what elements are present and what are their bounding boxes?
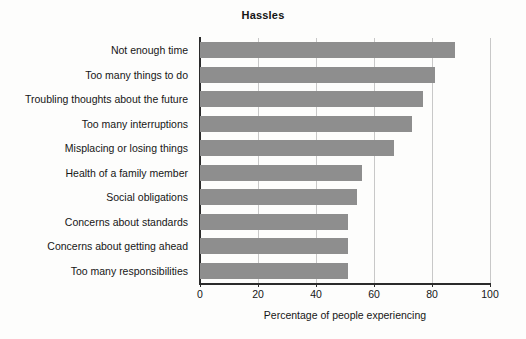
bar [200,189,357,205]
chart-title: Hassles [0,9,526,21]
bar [200,91,423,107]
chart-page: Hassles Not enough timeToo many things t… [0,0,526,339]
category-label: Social obligations [106,185,188,210]
bar-row [200,259,490,284]
category-label: Troubling thoughts about the future [25,87,188,112]
category-label: Health of a family member [65,161,188,186]
category-label: Too many things to do [85,63,188,88]
bar-row [200,234,490,259]
bar-row [200,63,490,88]
x-axis-line [199,283,491,285]
category-label: Too many responsibilities [71,259,188,284]
category-label: Concerns about getting ahead [47,234,188,259]
x-tick-label: 60 [368,288,380,300]
bar-row [200,112,490,137]
x-tick-mark [490,283,491,287]
x-tick-mark [258,283,259,287]
bar [200,214,348,230]
category-label: Misplacing or losing things [65,136,188,161]
category-label: Too many interruptions [82,112,188,137]
bar [200,263,348,279]
x-tick-label: 0 [197,288,203,300]
bar-row [200,161,490,186]
x-tick-label: 80 [426,288,438,300]
category-label: Not enough time [111,38,188,63]
bar [200,42,455,58]
bar [200,67,435,83]
x-axis-title: Percentage of people experiencing [200,309,490,321]
bar-row [200,87,490,112]
category-label: Concerns about standards [65,210,188,235]
gridline-100 [490,38,491,283]
bar [200,116,412,132]
bar-row [200,136,490,161]
x-tick-label: 100 [481,288,499,300]
x-axis-tick-labels: 020406080100 [0,288,526,304]
y-axis-category-labels: Not enough timeToo many things to doTrou… [0,38,194,283]
x-tick-mark [316,283,317,287]
x-tick-label: 20 [252,288,264,300]
bar-row [200,38,490,63]
x-tick-mark [374,283,375,287]
bar [200,140,394,156]
bar [200,165,362,181]
plot-area [200,38,490,283]
bar-row [200,185,490,210]
x-tick-mark [432,283,433,287]
bar-row [200,210,490,235]
x-tick-mark [200,283,201,287]
x-tick-label: 40 [310,288,322,300]
bar [200,238,348,254]
